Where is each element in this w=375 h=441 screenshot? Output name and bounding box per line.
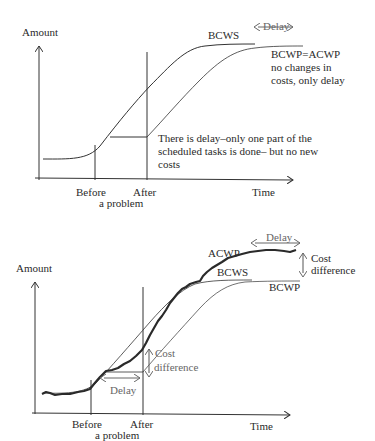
top-bcwp-label: BCWP=ACWP bbox=[271, 48, 340, 60]
bottom-delay-mid-label: Delay bbox=[110, 384, 136, 396]
bottom-y-axis-label: Amount bbox=[16, 262, 52, 274]
bottom-acwp-curve bbox=[42, 250, 296, 395]
top-y-axis-label: Amount bbox=[22, 26, 58, 38]
bottom-bcwp-label: BCWP bbox=[269, 281, 300, 293]
top-note-line2: costs, only delay bbox=[271, 74, 345, 86]
top-delay-note-line1: There is delay–only one part of the bbox=[158, 132, 312, 144]
bottom-cost-diff-mid-line2: difference bbox=[154, 361, 198, 373]
bottom-cost-diff-top-line1: Cost bbox=[311, 252, 331, 264]
bottom-delay-top-label: Delay bbox=[266, 231, 292, 243]
bottom-x-axis bbox=[32, 413, 290, 415]
bottom-problem-label: a problem bbox=[95, 429, 139, 441]
top-bcws-label: BCWS bbox=[208, 29, 239, 41]
bottom-bcws-curve bbox=[43, 280, 252, 393]
bottom-x-axis-label: Time bbox=[250, 420, 273, 432]
top-delay-label: Delay bbox=[263, 20, 289, 32]
top-delay-note-line3: costs bbox=[158, 158, 180, 170]
top-problem-label: a problem bbox=[99, 197, 143, 209]
top-x-axis bbox=[35, 178, 293, 180]
bottom-acwp-label: ACWP bbox=[208, 247, 240, 259]
top-note-line1: no changes in bbox=[271, 61, 331, 73]
bottom-chart bbox=[32, 243, 303, 415]
bottom-cost-diff-top-line2: difference bbox=[311, 264, 355, 276]
top-x-axis-label: Time bbox=[252, 186, 275, 198]
bottom-bcws-label: BCWS bbox=[217, 266, 248, 278]
bottom-cost-diff-mid-line1: Cost bbox=[155, 347, 175, 359]
top-delay-note-line2: scheduled tasks is done– but no new bbox=[158, 145, 318, 157]
